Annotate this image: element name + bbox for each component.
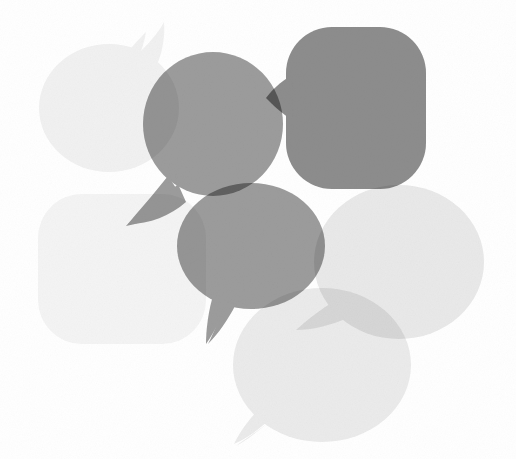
speech-bubble-illustration-canvas: Cluster of seven overlapping translucent… <box>0 0 516 459</box>
bubble-composition-svg <box>0 0 516 459</box>
grain-texture-layer <box>0 0 516 459</box>
